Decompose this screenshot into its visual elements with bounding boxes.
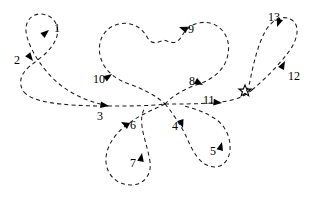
curve-left-loop (21, 14, 108, 106)
step-label-7: 7 (130, 157, 136, 169)
arrowhead-5 (217, 141, 226, 151)
arrowhead-layer (25, 18, 288, 162)
curve-right-loop (243, 18, 297, 96)
arrowhead-7 (137, 152, 145, 162)
arrowhead-9 (178, 24, 188, 33)
arrowhead-12 (278, 59, 288, 70)
trajectory-canvas (0, 0, 320, 207)
step-label-9: 9 (188, 23, 194, 35)
step-label-2: 2 (14, 54, 20, 66)
curve-lower-right-loop (165, 104, 230, 167)
curve-center-approach (108, 104, 165, 106)
step-label-4: 4 (172, 120, 178, 132)
arrowhead-2 (25, 52, 35, 63)
arrowhead-11 (213, 99, 222, 106)
step-label-12: 12 (288, 70, 300, 82)
curve-lower-left-loop (106, 104, 165, 185)
step-label-11: 11 (203, 94, 215, 106)
step-label-13: 13 (268, 11, 280, 23)
step-label-6: 6 (130, 119, 136, 131)
step-label-3: 3 (97, 110, 103, 122)
step-label-10: 10 (93, 73, 105, 85)
arrowhead-1 (40, 27, 51, 38)
curve-heart (99, 22, 228, 104)
step-label-5: 5 (210, 145, 216, 157)
curve-left-tail (24, 92, 108, 106)
trajectory-diagram: 12345678910111213 (0, 0, 320, 207)
arrowhead-6 (119, 119, 130, 129)
step-label-8: 8 (189, 75, 195, 87)
step-label-1: 1 (54, 22, 60, 34)
